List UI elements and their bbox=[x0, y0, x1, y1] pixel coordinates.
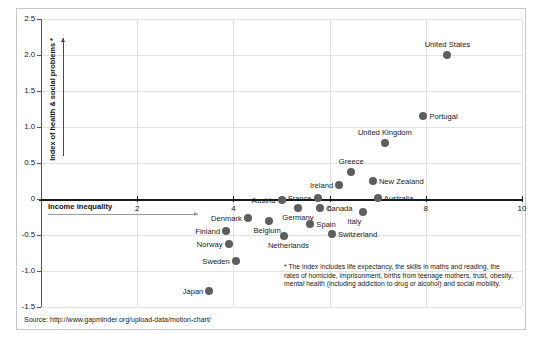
y-axis-tick bbox=[37, 307, 41, 308]
x-axis-label: Income inequality bbox=[48, 202, 218, 211]
x-axis-tick bbox=[522, 196, 523, 202]
y-axis-tick-label: 1.0 bbox=[13, 122, 35, 131]
data-point[interactable] bbox=[335, 181, 343, 189]
y-axis-tick-label: -1.5 bbox=[13, 302, 35, 311]
data-point-label: Canada bbox=[326, 203, 353, 212]
y-axis-tick bbox=[37, 235, 41, 236]
gridline-horizontal bbox=[41, 163, 522, 164]
y-axis-tick bbox=[37, 55, 41, 56]
data-point[interactable] bbox=[381, 139, 389, 147]
chart-figure: 2.52.01.51.00.50-0.5-1.0-1.5246810United… bbox=[0, 0, 544, 345]
y-axis-tick bbox=[37, 163, 41, 164]
footnote-text: * The index includes life expectancy, th… bbox=[284, 263, 516, 289]
y-axis-tick-label: 1.5 bbox=[13, 86, 35, 95]
data-point-label: Greece bbox=[339, 157, 364, 166]
y-axis-line bbox=[41, 19, 42, 307]
data-point[interactable] bbox=[369, 177, 377, 185]
y-axis-tick bbox=[37, 91, 41, 92]
data-point-label: Italy bbox=[347, 217, 361, 226]
data-point-label: Australia bbox=[384, 193, 414, 202]
y-axis-tick-label: 0 bbox=[13, 194, 35, 203]
x-axis-tick bbox=[330, 196, 331, 202]
data-point[interactable] bbox=[328, 230, 336, 238]
source-text: Source: http://www.gapminder.org/upload-… bbox=[24, 316, 211, 323]
data-point-label: Sweden bbox=[202, 256, 229, 265]
data-point[interactable] bbox=[374, 194, 382, 202]
gridline-horizontal bbox=[41, 91, 522, 92]
y-axis-tick bbox=[37, 127, 41, 128]
data-point[interactable] bbox=[359, 208, 367, 216]
data-point-label: Belgium bbox=[253, 226, 280, 235]
y-axis-tick bbox=[37, 199, 41, 200]
data-point-label: Switzerland bbox=[338, 229, 377, 238]
data-point[interactable] bbox=[314, 194, 322, 202]
data-point[interactable] bbox=[278, 196, 286, 204]
gridline-vertical bbox=[522, 19, 523, 307]
y-axis-tick-label: -0.5 bbox=[13, 230, 35, 239]
data-point[interactable] bbox=[244, 214, 252, 222]
x-axis-tick bbox=[233, 196, 234, 202]
gridline-horizontal bbox=[41, 19, 522, 20]
data-point-label: Austria bbox=[252, 196, 276, 205]
x-axis-arrow-icon bbox=[48, 214, 198, 215]
y-axis-arrow-icon bbox=[63, 38, 64, 156]
data-point[interactable] bbox=[225, 240, 233, 248]
data-point[interactable] bbox=[265, 217, 273, 225]
data-point-label: Japan bbox=[183, 287, 204, 296]
y-axis-tick-label: 2.0 bbox=[13, 50, 35, 59]
data-point-label: France bbox=[288, 193, 312, 202]
y-axis-tick-label: -1.0 bbox=[13, 266, 35, 275]
data-point[interactable] bbox=[316, 204, 324, 212]
x-axis-tick-label: 10 bbox=[512, 204, 532, 213]
x-axis-caption-group: Income inequality bbox=[48, 202, 218, 215]
data-point-label: Norway bbox=[197, 239, 223, 248]
data-point[interactable] bbox=[443, 51, 451, 59]
gridline-vertical bbox=[137, 19, 138, 307]
y-axis-tick bbox=[37, 271, 41, 272]
data-point[interactable] bbox=[222, 227, 230, 235]
data-point-label: Portugal bbox=[429, 112, 457, 121]
data-point[interactable] bbox=[294, 204, 302, 212]
y-axis-tick-label: 2.5 bbox=[13, 14, 35, 23]
x-axis-tick bbox=[426, 196, 427, 202]
data-point-label: Finland bbox=[195, 226, 220, 235]
data-point[interactable] bbox=[306, 220, 314, 228]
x-axis-tick-label: 8 bbox=[416, 204, 436, 213]
data-point[interactable] bbox=[232, 257, 240, 265]
y-axis-tick bbox=[37, 19, 41, 20]
data-point[interactable] bbox=[205, 287, 213, 295]
x-axis-tick-label: 4 bbox=[223, 204, 243, 213]
data-point[interactable] bbox=[347, 168, 355, 176]
data-point-label: United Kingdom bbox=[358, 128, 412, 137]
data-point-label: Netherlands bbox=[268, 241, 309, 250]
y-axis-tick-label: 0.5 bbox=[13, 158, 35, 167]
gridline-horizontal bbox=[41, 127, 522, 128]
data-point-label: United States bbox=[425, 40, 471, 49]
data-point[interactable] bbox=[280, 232, 288, 240]
data-point-label: Spain bbox=[316, 220, 335, 229]
y-axis-label: Index of health & social problems * bbox=[48, 38, 57, 161]
data-point-label: New Zealand bbox=[379, 177, 424, 186]
data-point-label: Ireland bbox=[310, 180, 333, 189]
gridline-horizontal bbox=[41, 307, 522, 308]
